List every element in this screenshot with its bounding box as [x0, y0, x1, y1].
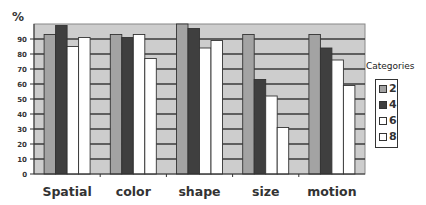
legend-label: 8: [389, 131, 397, 143]
bar-shape-6: [200, 48, 212, 174]
y-tick-label: 10: [17, 156, 27, 164]
y-tick-label: 60: [17, 81, 27, 89]
y-tick-label: 30: [17, 126, 27, 134]
bar-motion-2: [309, 35, 321, 175]
bar-spatial-8: [79, 38, 91, 175]
legend-item-6: 6: [379, 115, 397, 127]
bar-size-8: [277, 128, 289, 175]
bar-motion-4: [320, 48, 332, 174]
bar-shape-8: [211, 41, 223, 175]
legend-item-2: 2: [379, 83, 397, 95]
bar-size-2: [243, 35, 255, 175]
y-tick-label: 0: [22, 171, 27, 179]
bar-size-4: [254, 80, 266, 175]
x-category-label: motion: [307, 184, 356, 199]
legend-label: 6: [389, 115, 397, 127]
x-category-label: color: [116, 184, 152, 199]
bar-size-6: [266, 96, 278, 174]
bar-color-6: [133, 35, 145, 175]
legend-label: 4: [389, 99, 397, 111]
y-tick-label: 90: [17, 36, 27, 44]
legend-swatch: [379, 133, 387, 141]
x-category-label: size: [252, 184, 279, 199]
bar-motion-8: [343, 86, 355, 175]
y-tick-label: 70: [17, 66, 27, 74]
legend-swatch: [379, 85, 387, 93]
y-tick-label: 80: [17, 51, 27, 59]
bar-shape-4: [188, 29, 200, 175]
y-tick-label: 20: [17, 141, 27, 149]
x-category-label: Spatial: [42, 184, 91, 199]
bar-spatial-2: [44, 35, 56, 175]
legend: 2468: [375, 79, 398, 148]
y-tick-label: 50: [17, 96, 27, 104]
bar-shape-2: [177, 24, 189, 174]
legend-title: Categories: [366, 61, 415, 71]
bar-chart: 0102030405060708090Spatialcolorshapesize…: [0, 0, 426, 205]
legend-swatch: [379, 101, 387, 109]
bar-color-2: [110, 35, 122, 175]
bar-spatial-6: [67, 47, 79, 175]
bar-motion-6: [332, 60, 344, 174]
legend-swatch: [379, 117, 387, 125]
bar-color-8: [145, 59, 157, 175]
legend-item-8: 8: [379, 131, 397, 143]
bar-color-4: [122, 38, 134, 175]
y-tick-label: 40: [17, 111, 27, 119]
x-category-label: shape: [178, 184, 220, 199]
legend-item-4: 4: [379, 99, 397, 111]
bar-spatial-4: [56, 26, 68, 175]
legend-label: 2: [389, 83, 397, 95]
